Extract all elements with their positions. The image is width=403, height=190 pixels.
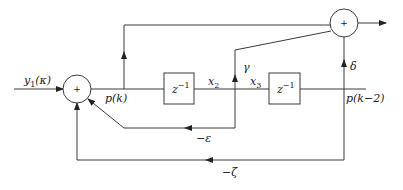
delta-label: δ bbox=[350, 60, 357, 73]
input-label: y1(κ) bbox=[23, 74, 51, 89]
svg-text:+: + bbox=[340, 18, 348, 28]
block-diagram: + + z−1 z−1 y1(κ) p(k) x2 x3 γ δ p(k−2) … bbox=[0, 0, 403, 190]
sum-junction-1: + bbox=[63, 75, 91, 103]
zeta-label: −ζ bbox=[222, 166, 238, 179]
delay-block-2: z−1 bbox=[269, 73, 300, 104]
x3-label: x3 bbox=[250, 75, 261, 90]
x2-label: x2 bbox=[208, 75, 219, 90]
sum-junction-2: + bbox=[330, 9, 358, 37]
pk-top-line bbox=[124, 25, 330, 54]
pk2-label: p(k−2) bbox=[346, 92, 385, 105]
svg-text:+: + bbox=[73, 84, 81, 94]
epsilon-label: −ε bbox=[196, 132, 211, 145]
pk-label: p(k) bbox=[105, 92, 127, 105]
gamma-label: γ bbox=[243, 61, 250, 74]
delay-block-1: z−1 bbox=[164, 73, 194, 104]
